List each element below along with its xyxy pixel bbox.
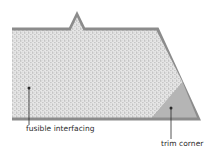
trim-corner-label: trim corner	[161, 140, 203, 148]
fusible-interfacing-label: fusible interfacing	[26, 125, 95, 133]
fusible-interfacing	[12, 17, 183, 118]
